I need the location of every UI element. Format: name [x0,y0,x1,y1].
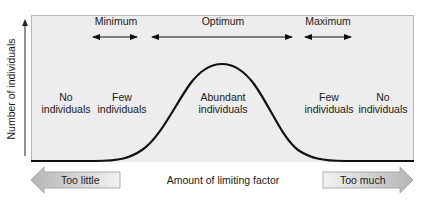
minimum-label: Minimum [94,15,138,27]
zone-label-abundant-individuals: Abundant individuals [192,91,254,115]
too-little-label: Too little [61,174,100,186]
y-axis-arrow-icon [22,19,28,156]
too-much-label: Too much [340,174,386,186]
zone-label-few-individuals-left: Few individuals [91,91,153,115]
maximum-label: Maximum [303,15,353,27]
zone-label-few-individuals-right: Few individuals [298,91,360,115]
zone-label-no-individuals-right: No individuals [352,91,414,115]
zone-label-no-individuals-left: No individuals [35,91,97,115]
y-axis-label: Number of individuals [5,39,17,140]
optimum-label: Optimum [196,15,250,27]
x-axis-label: Amount of limiting factor [167,174,280,186]
